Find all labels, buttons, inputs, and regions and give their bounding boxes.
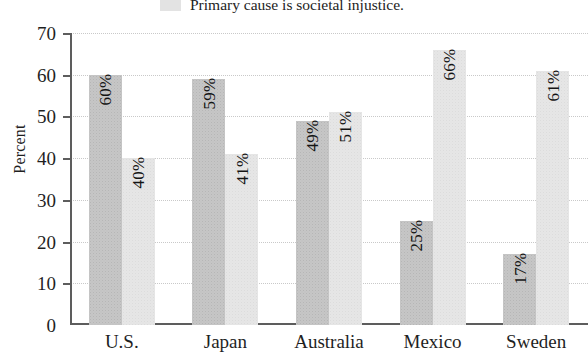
bar-value-label: 17%	[511, 253, 528, 285]
plot-area: 60% 40% 59% 41% 49% 51%	[70, 33, 588, 325]
bar-groups: 60% 40% 59% 41% 49% 51%	[70, 33, 588, 325]
bar-value-label: 60%	[97, 73, 114, 105]
y-tick-mark-20	[63, 242, 70, 244]
y-tick-60: 60	[37, 65, 56, 84]
y-tick-mark-30	[63, 200, 70, 202]
bar-us-series-light: 40%	[122, 158, 155, 325]
bar-mexico-series-dark: 25%	[400, 221, 433, 325]
y-tick-40: 40	[37, 149, 56, 168]
bar-value-label: 41%	[233, 152, 250, 184]
y-axis-tick-labels: 70 60 50 40 30 20 10 0	[0, 33, 64, 325]
bar-group-mexico: 25% 66%	[381, 33, 485, 325]
x-label-mexico: Mexico	[381, 330, 485, 358]
bar-group-us: 60% 40%	[70, 33, 174, 325]
bar-group-australia: 49% 51%	[277, 33, 381, 325]
bar-value-label: 61%	[544, 69, 561, 101]
x-label-japan: Japan	[174, 330, 278, 358]
bar-chart-figure: Primary cause is societal injustice. Per…	[0, 0, 588, 361]
y-tick-10: 10	[37, 274, 56, 293]
bar-value-label: 40%	[130, 157, 147, 189]
legend-label-societal-injustice: Primary cause is societal injustice.	[190, 0, 404, 12]
bar-group-sweden: 17% 61%	[484, 33, 588, 325]
y-tick-mark-60	[63, 75, 70, 77]
y-tick-mark-50	[63, 116, 70, 118]
bar-australia-series-light: 51%	[329, 112, 362, 325]
bar-value-label: 49%	[304, 119, 321, 151]
y-tick-mark-40	[63, 158, 70, 160]
y-tick-70: 70	[37, 24, 56, 43]
bar-value-label: 66%	[441, 48, 458, 80]
y-tick-20: 20	[37, 232, 56, 251]
bar-value-label: 59%	[200, 77, 217, 109]
y-tick-50: 50	[37, 107, 56, 126]
x-label-australia: Australia	[277, 330, 381, 358]
bar-sweden-series-dark: 17%	[503, 254, 536, 325]
bar-value-label: 51%	[337, 111, 354, 143]
y-tick-mark-70	[63, 33, 70, 35]
bar-sweden-series-light: 61%	[536, 71, 569, 326]
bar-australia-series-dark: 49%	[296, 121, 329, 325]
bar-value-label: 25%	[408, 219, 425, 251]
x-label-sweden: Sweden	[484, 330, 588, 358]
chart-legend: Primary cause is societal injustice.	[160, 0, 404, 12]
x-axis-category-labels: U.S. Japan Australia Mexico Sweden	[70, 330, 588, 358]
bar-group-japan: 59% 41%	[174, 33, 278, 325]
bar-japan-series-light: 41%	[225, 154, 258, 325]
y-tick-30: 30	[37, 190, 56, 209]
legend-swatch-societal-injustice	[160, 0, 181, 11]
y-tick-0: 0	[47, 316, 57, 335]
bar-japan-series-dark: 59%	[192, 79, 225, 325]
y-tick-mark-10	[63, 283, 70, 285]
bar-mexico-series-light: 66%	[433, 50, 466, 325]
bar-us-series-dark: 60%	[89, 75, 122, 325]
x-label-us: U.S.	[70, 330, 174, 358]
